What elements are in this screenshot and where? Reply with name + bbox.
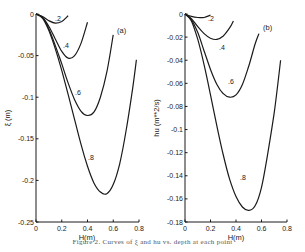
- panel-a-yticks: 0-0.05-0.1-0.15-0.2-0.25: [18, 11, 38, 226]
- panel-a-ylabel: ξ (m): [3, 109, 12, 126]
- panel-a-curve-label-4: .4: [63, 42, 69, 49]
- panel-b-curve-label-6: .6: [228, 78, 234, 85]
- y-tick-label: -0.05: [18, 52, 34, 59]
- x-tick-label: 0: [183, 225, 187, 232]
- x-tick-label: 0.6: [108, 225, 118, 232]
- y-tick-label: -0.06: [167, 80, 183, 87]
- panel-a: 00.20.40.60.8 0-0.05-0.1-0.15-0.2-0.25 H…: [3, 11, 144, 243]
- y-tick-label: 0: [179, 11, 183, 18]
- figure-canvas: 00.20.40.60.8 0-0.05-0.1-0.15-0.2-0.25 H…: [0, 0, 305, 252]
- panel-a-xticks: 00.20.40.60.8: [34, 220, 144, 233]
- panel-b-curve-label-4: .4: [219, 44, 225, 51]
- x-tick-label: 0.4: [83, 225, 93, 232]
- y-tick-label: -0.12: [167, 149, 183, 156]
- panel-a-curves: [36, 14, 136, 194]
- curve-series-8: [36, 14, 136, 194]
- panel-a-axes: [36, 14, 139, 222]
- panel-b-yticks: 0-0.02-0.04-0.06-0.08-0.1-0.12-0.14-0.16…: [167, 11, 187, 226]
- y-tick-label: -0.15: [18, 135, 34, 142]
- x-tick-label: 0.4: [231, 225, 241, 232]
- x-tick-label: 0.2: [57, 225, 67, 232]
- panel-b-label: (b): [263, 23, 273, 32]
- y-tick-label: 0: [30, 11, 34, 18]
- panel-b-xticks: 00.20.40.60.8: [183, 220, 292, 233]
- y-tick-label: -0.08: [167, 103, 183, 110]
- y-tick-label: -0.1: [171, 126, 183, 133]
- panel-b-curve-label-2: .2: [208, 15, 214, 22]
- y-tick-label: -0.14: [167, 172, 183, 179]
- y-tick-label: -0.02: [167, 34, 183, 41]
- curve-series-6: [185, 14, 259, 97]
- panel-b-curves: [185, 14, 281, 210]
- x-tick-label: 0: [34, 225, 38, 232]
- panel-a-curve-label-2: .2: [55, 15, 61, 22]
- x-tick-label: 0.8: [134, 225, 144, 232]
- x-tick-label: 0.6: [257, 225, 267, 232]
- panel-a-label: (a): [117, 26, 127, 35]
- figure-caption: Figure 2. Curves of ξ and hu vs. depth a…: [0, 238, 305, 246]
- panel-b-ylabel: hu (m**2/s): [152, 99, 161, 137]
- panel-b-axes: [185, 14, 287, 222]
- panel-a-curve-label-6: .6: [75, 89, 81, 96]
- panel-a-curve-label-8: .8: [88, 154, 94, 161]
- x-tick-label: 0.8: [282, 225, 292, 232]
- x-tick-label: 0.2: [206, 225, 216, 232]
- y-tick-label: -0.18: [167, 219, 183, 226]
- curve-series-8: [185, 14, 281, 210]
- curve-series-6: [36, 14, 113, 116]
- y-tick-label: -0.16: [167, 195, 183, 202]
- y-tick-label: -0.04: [167, 57, 183, 64]
- y-tick-label: -0.1: [22, 94, 34, 101]
- panel-b-curve-label-8: .8: [240, 174, 246, 181]
- panel-b: 00.20.40.60.8 0-0.02-0.04-0.06-0.08-0.1-…: [152, 11, 292, 243]
- y-tick-label: -0.2: [22, 177, 34, 184]
- y-tick-label: -0.25: [18, 219, 34, 226]
